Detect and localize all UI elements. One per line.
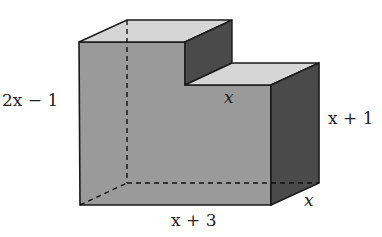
solid-figure: [0, 0, 382, 237]
label-depth: x: [304, 192, 314, 209]
label-right-height: x + 1: [328, 110, 373, 127]
label-step-width: x: [224, 89, 234, 106]
label-height-left: 2x − 1: [2, 92, 58, 109]
label-bottom-length: x + 3: [171, 212, 216, 229]
diagram-canvas: 2x − 1 x x + 1 x + 3 x: [0, 0, 382, 237]
